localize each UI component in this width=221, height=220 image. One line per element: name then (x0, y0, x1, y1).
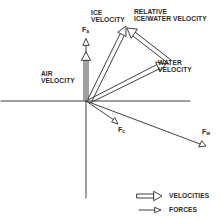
legend-velocity-symbol (137, 192, 162, 201)
relative-velocity-label: RELATIVE ICE/WATER VELOCITY (134, 8, 207, 23)
fa-label: Fa (82, 26, 89, 34)
ice-velocity-label-line1: ICE (91, 9, 125, 16)
fw-force-arrow (86, 101, 206, 147)
fc-label: Fc (118, 126, 125, 134)
air-velocity-label-line1: AIR (41, 70, 75, 77)
relative-velocity-label-line1: RELATIVE (134, 8, 207, 15)
fc-force-arrow (86, 101, 118, 124)
fa-subscript: a (86, 28, 89, 34)
water-velocity-label-line1: WATER (158, 59, 192, 66)
legend-velocities-label: VELOCITIES (169, 192, 209, 199)
legend-forces-label: FORCES (169, 206, 197, 213)
force-velocity-diagram (0, 0, 221, 220)
ice-velocity-label: ICE VELOCITY (91, 9, 125, 24)
water-velocity-arrow (88, 62, 166, 103)
fw-subscript: w (206, 130, 210, 136)
air-velocity-label: AIR VELOCITY (41, 70, 75, 85)
relative-velocity-label-line2: ICE/WATER VELOCITY (134, 15, 207, 22)
legend-force-symbol (139, 208, 161, 213)
water-velocity-label-line2: VELOCITY (158, 66, 192, 73)
fc-subscript: c (122, 128, 125, 134)
fa-force-arrow (83, 39, 89, 53)
air-velocity-label-line2: VELOCITY (41, 77, 75, 84)
water-velocity-label: WATER VELOCITY (158, 59, 192, 74)
fw-label: Fw (202, 128, 210, 136)
ice-velocity-label-line2: VELOCITY (91, 16, 125, 23)
